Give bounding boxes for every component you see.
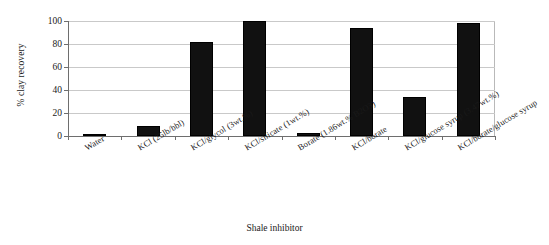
y-tick-label: 40	[53, 85, 63, 95]
plot-area: 020406080100	[68, 21, 495, 136]
plot-background	[68, 21, 495, 136]
y-tick-label: 20	[53, 108, 63, 118]
y-tick-label: 80	[53, 39, 63, 49]
y-axis-line	[68, 21, 69, 136]
gridline	[68, 44, 495, 45]
gridline	[68, 113, 495, 114]
gridline	[68, 21, 495, 22]
gridline	[68, 90, 495, 91]
y-tick-label: 100	[48, 16, 62, 26]
y-tick-label: 60	[53, 62, 63, 72]
x-axis-title: Shale inhibitor	[0, 222, 549, 234]
y-tick-label: 0	[57, 131, 62, 141]
y-axis-title: % clay recovery	[14, 25, 28, 125]
bar	[403, 97, 426, 136]
bar	[190, 42, 213, 136]
plot-right-border	[494, 21, 495, 136]
x-tick-mark	[495, 136, 496, 140]
clay-recovery-bar-chart: % clay recovery 020406080100 WaterKCl (2…	[0, 0, 549, 245]
gridline	[68, 67, 495, 68]
